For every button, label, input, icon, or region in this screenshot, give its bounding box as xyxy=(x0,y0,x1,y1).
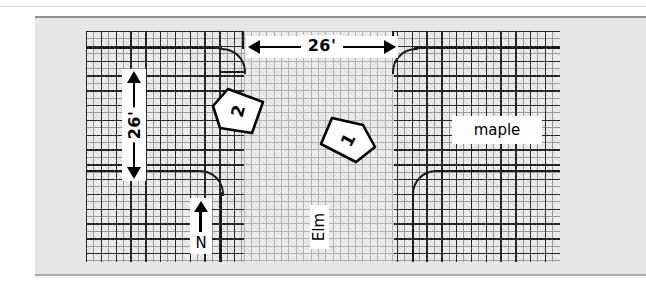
curb-left-lower xyxy=(220,192,222,262)
north-arrow-label: N xyxy=(190,234,212,252)
street-label-elm: Elm xyxy=(310,205,329,249)
parcel-polygon-2[interactable]: 2 xyxy=(212,88,264,134)
curb-bottom-right-horizontal xyxy=(436,170,560,172)
street-label-maple: maple xyxy=(452,116,542,144)
street-label-maple-text: maple xyxy=(474,121,521,139)
arrow-up-icon xyxy=(127,71,141,83)
curb-top-left-horizontal xyxy=(86,47,222,49)
arrow-left-icon xyxy=(248,40,260,54)
street-label-elm-text: Elm xyxy=(311,213,329,241)
curb-right-lower xyxy=(412,192,414,262)
dimension-vertical: 26' xyxy=(122,69,146,181)
bottom-hairline-rule xyxy=(35,277,646,278)
dimension-label-horizontal: 26' xyxy=(301,35,343,57)
dimension-label-vertical: 26' xyxy=(125,108,144,143)
figure-canvas: 26' 26' 2 1 maple Elm N xyxy=(0,0,646,292)
north-arrow: N xyxy=(190,198,212,254)
curb-top-right-horizontal xyxy=(414,47,560,49)
parcel-polygon-1[interactable]: 1 xyxy=(320,117,376,163)
arrow-down-icon xyxy=(127,167,141,179)
arrow-right-icon xyxy=(384,40,396,54)
dimension-horizontal: 26' xyxy=(246,36,398,58)
bottom-rule xyxy=(35,274,646,276)
top-hairline-rule xyxy=(0,6,646,7)
north-arrow-shaft xyxy=(199,210,202,232)
